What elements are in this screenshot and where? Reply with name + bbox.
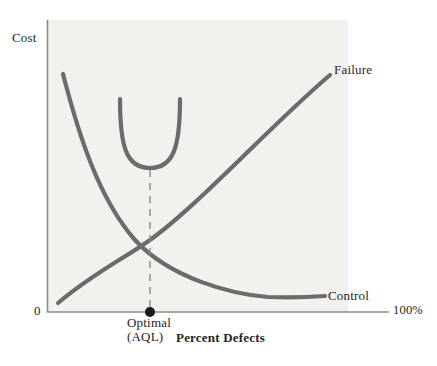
y-axis-origin-label: 0 [34, 303, 41, 319]
chart-figure: Cost 0 Failure Control 100% Optimal (AQL… [0, 0, 437, 366]
total-cost-curve [120, 99, 180, 168]
failure-series-label: Failure [334, 62, 372, 78]
optimal-annotation-line1: Optimal [127, 316, 171, 330]
chart-canvas [0, 0, 437, 366]
x-axis-label: Percent Defects [176, 330, 265, 346]
y-axis-label: Cost [12, 30, 37, 46]
x-axis-end-label: 100% [393, 303, 423, 318]
control-cost-curve [63, 74, 325, 297]
failure-cost-curve [58, 75, 330, 303]
control-series-label: Control [328, 288, 369, 304]
optimal-annotation-line2: (AQL) [127, 330, 171, 344]
optimal-annotation: Optimal (AQL) [127, 316, 171, 344]
